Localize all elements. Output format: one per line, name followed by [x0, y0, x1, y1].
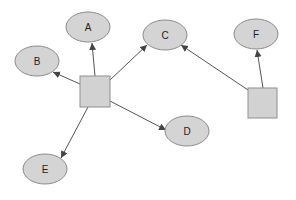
node-d[interactable]: D [165, 116, 209, 146]
edge-hub2-to-c [181, 45, 248, 90]
node-a[interactable]: A [66, 12, 110, 42]
edge-hub1-to-e [61, 107, 88, 158]
edge-hub1-to-c [110, 45, 147, 80]
node-f-label: F [253, 29, 259, 40]
node-b[interactable]: B [15, 46, 59, 76]
node-d-label: D [183, 126, 190, 137]
node-e-label: E [42, 164, 49, 175]
node-c-label: C [161, 30, 168, 41]
node-c[interactable]: C [143, 20, 187, 50]
edge-hub1-to-b [53, 72, 80, 84]
edge-hub1-to-d [110, 101, 166, 130]
node-a-label: A [85, 22, 92, 33]
edge-hub2-to-f [257, 50, 263, 88]
node-b-label: B [34, 56, 41, 67]
hub-square-left[interactable] [80, 76, 110, 107]
hub-square-right[interactable] [248, 88, 277, 118]
edge-hub1-to-a [92, 43, 95, 76]
node-e[interactable]: E [23, 154, 67, 184]
node-f[interactable]: F [234, 19, 278, 49]
diagram-canvas: A B C D E F [0, 0, 296, 200]
